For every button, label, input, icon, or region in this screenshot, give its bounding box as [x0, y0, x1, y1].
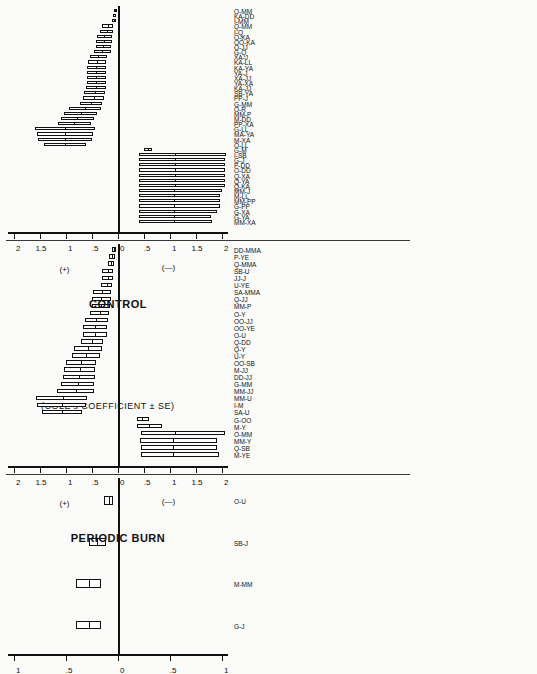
error-bar — [139, 215, 211, 218]
mean-marker — [94, 96, 95, 99]
mean-marker — [98, 55, 99, 58]
axis-tick — [14, 233, 15, 239]
mean-marker — [175, 158, 176, 161]
axis-tick-label: 1 — [57, 244, 73, 253]
mean-marker — [96, 76, 97, 79]
mean-marker — [96, 81, 97, 84]
mean-marker — [74, 122, 75, 125]
mean-marker — [174, 189, 175, 192]
category-label: O-MM — [234, 8, 252, 15]
axis-tick-label: 1 — [161, 244, 177, 253]
panel-control: 21.51.50.511.52(—)(+)CONTROLMM-XAG-YAG-X… — [0, 0, 420, 674]
error-bar — [139, 199, 220, 202]
mean-marker — [96, 66, 97, 69]
axis-tick — [222, 233, 223, 239]
error-bar — [139, 153, 226, 156]
axis-pos-sign: (+) — [60, 265, 70, 274]
error-bar — [139, 158, 225, 161]
mean-marker — [174, 199, 175, 202]
axis-tick-label: 0 — [109, 244, 125, 253]
mean-marker — [102, 50, 103, 53]
mean-marker — [175, 168, 176, 171]
error-bar — [139, 179, 225, 182]
error-bar — [139, 210, 217, 213]
mean-marker — [175, 184, 176, 187]
error-bar — [139, 168, 225, 171]
axis-tick-label: 1.5 — [187, 244, 203, 253]
error-bar — [139, 220, 212, 223]
zero-axis-line — [118, 6, 120, 234]
axis-tick — [118, 233, 119, 239]
mean-marker — [107, 30, 108, 33]
mean-marker — [108, 24, 109, 27]
mean-marker — [174, 194, 175, 197]
axis-tick — [170, 233, 171, 239]
error-bar — [139, 184, 225, 187]
axis-tick — [40, 233, 41, 239]
axis-tick — [196, 233, 197, 239]
figure-page: (COLE's COEFFICIENT ± SE) 1.50.51(—)(+)A… — [0, 0, 537, 674]
mean-marker — [175, 153, 176, 156]
mean-marker — [104, 35, 105, 38]
mean-marker — [65, 132, 66, 135]
mean-marker — [175, 163, 176, 166]
mean-marker — [96, 86, 97, 89]
axis-tick — [144, 233, 145, 239]
panel-title-control: CONTROL — [89, 298, 147, 310]
mean-marker — [175, 174, 176, 177]
mean-marker — [65, 138, 66, 141]
axis-tick-label: 2 — [5, 244, 21, 253]
mean-marker — [65, 127, 66, 130]
mean-marker — [148, 148, 149, 151]
mean-marker — [81, 112, 82, 115]
axis-tick-label: .5 — [83, 244, 99, 253]
error-bar — [139, 204, 220, 207]
mean-marker — [174, 210, 175, 213]
mean-marker — [95, 91, 96, 94]
mean-marker — [174, 220, 175, 223]
mean-marker — [103, 45, 104, 48]
axis-tick-label: 1.5 — [31, 244, 47, 253]
mean-marker — [65, 143, 66, 146]
mean-marker — [96, 71, 97, 74]
mean-marker — [175, 179, 176, 182]
mean-marker — [174, 204, 175, 207]
axis-neg-sign: (—) — [162, 263, 175, 272]
axis-tick — [66, 233, 67, 239]
error-bar — [139, 194, 220, 197]
axis-tick — [92, 233, 93, 239]
mean-marker — [115, 14, 116, 17]
figure-plot-area: (COLE's COEFFICIENT ± SE) 1.50.51(—)(+)A… — [0, 0, 420, 674]
axis-tick-label: 2 — [213, 244, 229, 253]
mean-marker — [77, 117, 78, 120]
mean-marker — [97, 60, 98, 63]
error-bar — [139, 174, 225, 177]
mean-marker — [174, 215, 175, 218]
error-bar — [139, 189, 222, 192]
mean-marker — [115, 9, 116, 12]
axis-tick-label: .5 — [135, 244, 151, 253]
error-bar — [139, 163, 225, 166]
mean-marker — [104, 40, 105, 43]
mean-marker — [114, 19, 115, 22]
mean-marker — [91, 102, 92, 105]
mean-marker — [85, 107, 86, 110]
